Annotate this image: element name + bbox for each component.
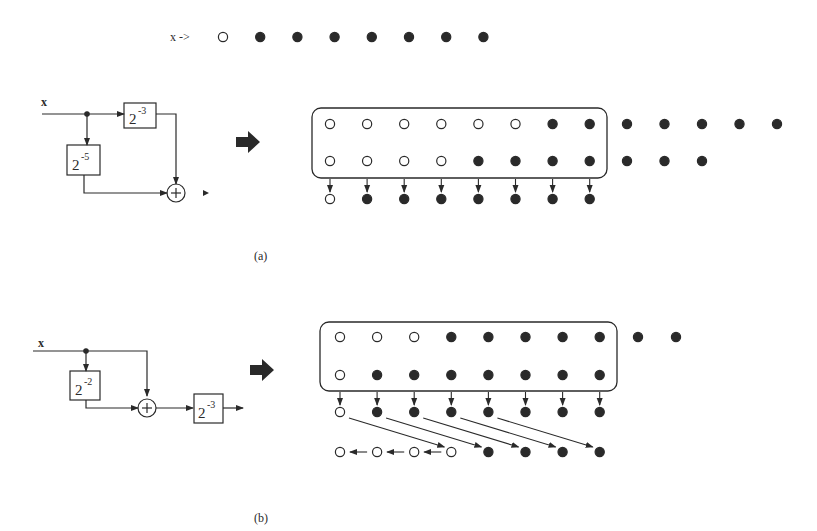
bit-one-dot	[585, 119, 594, 128]
bit-zero-dot	[437, 156, 446, 165]
bit-zero-dot	[447, 447, 456, 456]
shift-arrow	[386, 418, 481, 447]
bit-one-dot	[548, 119, 557, 128]
bit-one-dot	[660, 119, 669, 128]
bit-one-dot	[772, 119, 781, 128]
input-wire	[33, 351, 147, 396]
bit-zero-dot	[511, 119, 520, 128]
bit-zero-dot	[325, 156, 334, 165]
bit-one-dot	[521, 407, 530, 416]
panel-a-register-box	[312, 108, 607, 178]
bit-zero-dot	[373, 447, 382, 456]
bit-one-dot	[484, 407, 493, 416]
bit-one-dot	[410, 370, 419, 379]
bit-one-dot	[595, 407, 604, 416]
panel-a-block-diagram: x	[41, 95, 209, 202]
bit-one-dot	[558, 407, 567, 416]
bit-zero-dot	[437, 119, 446, 128]
bit-one-dot	[404, 32, 413, 41]
bit-one-dot	[697, 156, 706, 165]
bit-one-dot	[447, 407, 456, 416]
bit-zero-dot	[335, 447, 344, 456]
panel-b-caption: (b)	[254, 511, 268, 525]
bit-one-dot	[484, 332, 493, 341]
bit-one-dot	[484, 447, 493, 456]
bit-one-dot	[697, 119, 706, 128]
bit-one-dot	[511, 156, 520, 165]
input-bits	[218, 32, 488, 41]
bit-one-dot	[511, 194, 520, 203]
bit-one-dot	[521, 332, 530, 341]
bit-one-dot	[293, 32, 302, 41]
shift-arrow	[497, 418, 592, 447]
bit-one-dot	[400, 194, 409, 203]
bit-one-dot	[447, 332, 456, 341]
transform-arrow-icon	[236, 131, 260, 153]
bit-one-dot	[521, 447, 530, 456]
bit-zero-dot	[474, 119, 483, 128]
bit-one-dot	[447, 370, 456, 379]
input-row: x ->	[170, 30, 488, 44]
bit-zero-dot	[400, 156, 409, 165]
shift-arrow	[423, 418, 518, 447]
panel-b-bit-grid	[335, 332, 680, 456]
bit-one-dot	[585, 194, 594, 203]
bit-one-dot	[660, 156, 669, 165]
bit-zero-dot	[325, 194, 334, 203]
bit-zero-dot	[410, 332, 419, 341]
bit-one-dot	[633, 332, 642, 341]
bit-zero-dot	[335, 370, 344, 379]
panel-b-input-label: x	[38, 336, 44, 350]
bit-one-dot	[595, 370, 604, 379]
bit-one-dot	[474, 194, 483, 203]
bit-one-dot	[373, 407, 382, 416]
bit-one-dot	[437, 194, 446, 203]
bit-one-dot	[256, 32, 265, 41]
bit-one-dot	[367, 32, 376, 41]
wire-to-adder-left	[84, 175, 167, 193]
bit-one-dot	[558, 332, 567, 341]
block-label-exp: -2	[84, 376, 92, 387]
bit-one-dot	[363, 194, 372, 203]
wire-to-adder-left	[86, 400, 138, 408]
figure-canvas: x -> x 2 -3 2 -5 (a) x	[0, 0, 817, 531]
bit-one-dot	[548, 194, 557, 203]
bit-one-dot	[558, 370, 567, 379]
transform-arrow-icon	[250, 359, 274, 381]
bit-one-dot	[330, 32, 339, 41]
bit-zero-dot	[400, 119, 409, 128]
wire-to-adder-top	[156, 114, 176, 184]
bit-one-dot	[585, 156, 594, 165]
block-label-exp: -3	[207, 399, 215, 410]
bit-one-dot	[548, 156, 557, 165]
shift-arrow	[349, 418, 444, 447]
bit-one-dot	[521, 370, 530, 379]
bit-one-dot	[595, 447, 604, 456]
bit-one-dot	[595, 332, 604, 341]
bit-zero-dot	[218, 32, 227, 41]
panel-b-register-box	[320, 322, 617, 391]
block-label-base: 2	[198, 405, 206, 421]
block-label-exp: -3	[138, 105, 146, 116]
bit-zero-dot	[325, 119, 334, 128]
bit-one-dot	[735, 119, 744, 128]
bit-one-dot	[373, 370, 382, 379]
bit-one-dot	[410, 407, 419, 416]
bit-one-dot	[474, 156, 483, 165]
bit-zero-dot	[410, 447, 419, 456]
bit-zero-dot	[335, 332, 344, 341]
bit-zero-dot	[373, 332, 382, 341]
bit-one-dot	[558, 447, 567, 456]
shift-arrow	[460, 418, 555, 447]
block-label-base: 2	[129, 111, 137, 127]
panel-a-block-labels: 2 -3 2 -5	[72, 105, 146, 173]
panel-a-bit-grid	[325, 119, 781, 203]
bit-zero-dot	[335, 407, 344, 416]
bit-one-dot	[484, 370, 493, 379]
panel-a-caption: (a)	[254, 249, 267, 263]
bit-zero-dot	[363, 119, 372, 128]
bit-zero-dot	[363, 156, 372, 165]
block-label-base: 2	[72, 157, 80, 173]
output-arrow-icon	[203, 190, 209, 196]
block-label-base: 2	[75, 382, 83, 398]
